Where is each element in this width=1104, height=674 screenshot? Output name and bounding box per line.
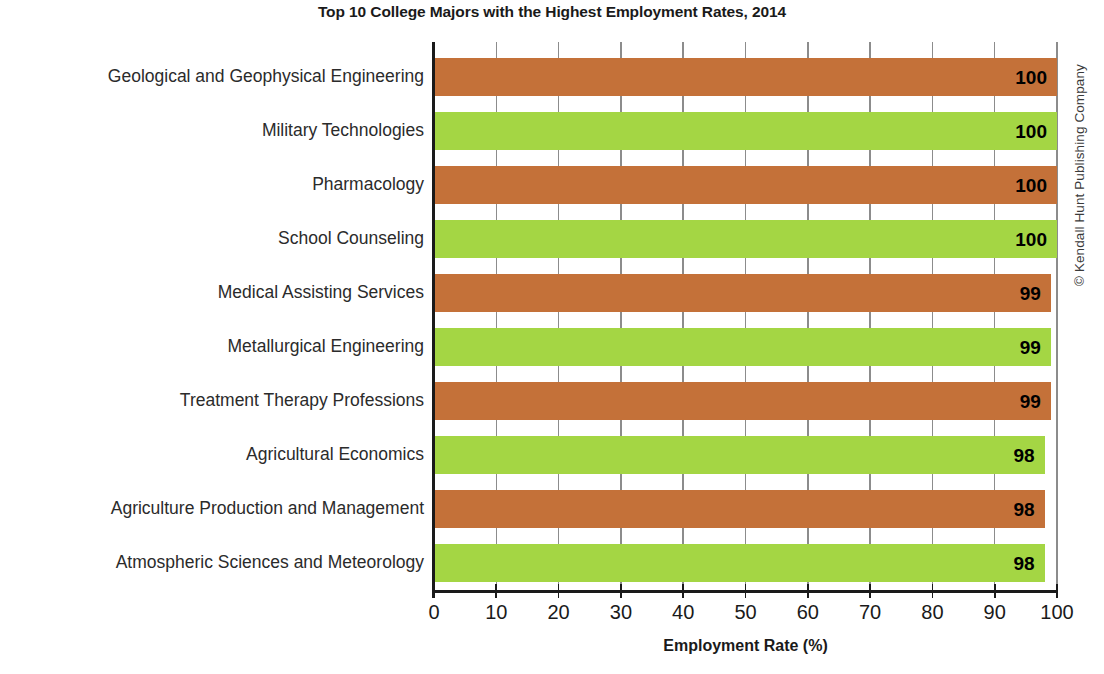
x-tick [495,584,497,598]
category-axis-labels: Geological and Geophysical EngineeringMi… [0,50,428,590]
x-tick [745,584,747,598]
category-label: Medical Assisting Services [218,284,424,302]
bar-row: 99 [434,274,1057,312]
bar-value-label: 98 [1013,500,1034,519]
x-tick-label: 90 [965,601,1025,624]
x-tick [558,584,560,598]
bar-row: 98 [434,490,1057,528]
x-tick-label: 70 [840,601,900,624]
x-tick [433,584,435,598]
bar-row: 98 [434,436,1057,474]
bar-row: 100 [434,220,1057,258]
bar-value-label: 99 [1020,338,1041,357]
bar-value-label: 100 [1015,230,1047,249]
bar: 99 [434,328,1051,366]
bar-value-label: 100 [1015,68,1047,87]
category-axis-line [432,42,435,598]
x-tick-label: 40 [653,601,713,624]
x-tick [1056,584,1058,598]
bar: 99 [434,382,1051,420]
chart-title: Top 10 College Majors with the Highest E… [0,3,1104,21]
x-tick-label: 0 [404,601,464,624]
category-label: School Counseling [278,230,424,248]
bar-row: 100 [434,166,1057,204]
bar: 100 [434,220,1057,258]
x-tick-label: 60 [778,601,838,624]
bar-chart: Top 10 College Majors with the Highest E… [0,0,1104,674]
bar-value-label: 100 [1015,176,1047,195]
category-label: Agricultural Economics [246,446,424,464]
bar-row: 99 [434,328,1057,366]
x-tick [807,584,809,598]
bar: 100 [434,112,1057,150]
plot-area: 100100100100999999989898 010203040506070… [434,50,1057,590]
bar: 98 [434,436,1045,474]
x-tick-label: 30 [591,601,651,624]
x-tick [932,584,934,598]
x-axis-title: Employment Rate (%) [434,637,1057,655]
bar-row: 100 [434,58,1057,96]
category-label: Pharmacology [312,176,424,194]
bar-value-label: 99 [1020,392,1041,411]
bar-value-label: 98 [1013,446,1034,465]
x-tick-label: 20 [529,601,589,624]
copyright-credit: © Kendall Hunt Publishing Company [1072,64,1087,286]
x-tick-label: 50 [716,601,776,624]
bar: 98 [434,490,1045,528]
x-tick [620,584,622,598]
bar-value-label: 98 [1013,554,1034,573]
bar-value-label: 99 [1020,284,1041,303]
category-label: Metallurgical Engineering [228,338,425,356]
x-tick [869,584,871,598]
bar-row: 98 [434,544,1057,582]
category-label: Treatment Therapy Professions [180,392,424,410]
x-tick-label: 80 [902,601,962,624]
category-label: Atmospheric Sciences and Meteorology [116,554,424,572]
bar: 98 [434,544,1045,582]
bar: 100 [434,58,1057,96]
bar-row: 99 [434,382,1057,420]
bar: 99 [434,274,1051,312]
x-tick [994,584,996,598]
category-label: Geological and Geophysical Engineering [108,68,424,86]
category-label: Military Technologies [262,122,424,140]
bar-value-label: 100 [1015,122,1047,141]
x-tick-label: 100 [1027,601,1087,624]
bar: 100 [434,166,1057,204]
x-tick [682,584,684,598]
bar-row: 100 [434,112,1057,150]
x-tick-label: 10 [466,601,526,624]
category-label: Agriculture Production and Management [111,500,424,518]
